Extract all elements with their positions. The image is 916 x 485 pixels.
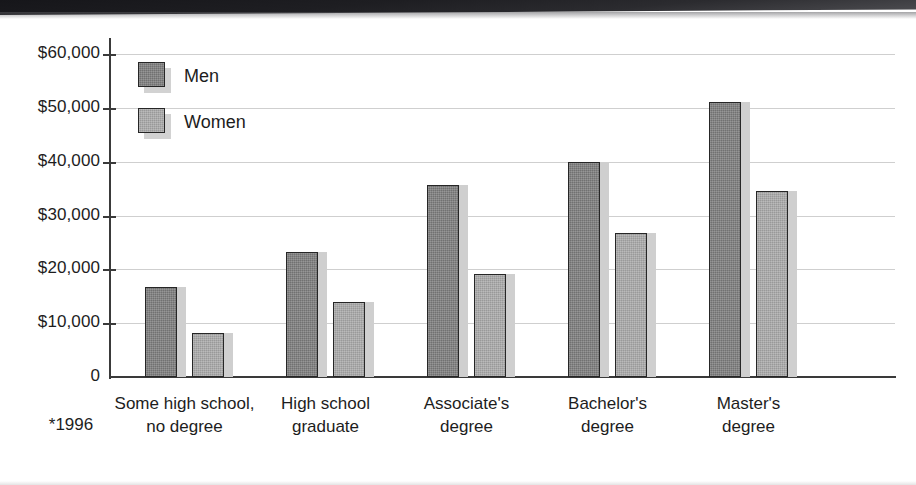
chart-legend: MenWomen [138,62,246,154]
y-axis-tick-label: $40,000 [4,151,100,171]
y-axis-tick-label: $10,000 [4,312,100,332]
y-axis-tick-label: 0 [4,366,100,386]
y-axis-tick-label: $50,000 [4,97,100,117]
category-label-4: Master'sdegree [654,392,844,438]
y-axis-tick-mark [103,54,116,56]
bar-men-1 [286,252,318,377]
bar-women-0 [192,333,224,377]
scan-bottom-edge [0,481,916,485]
bar-women-3 [615,233,647,377]
y-axis-tick-label: $60,000 [4,43,100,63]
y-axis-tick-mark [103,216,116,218]
bar-men-0 [145,287,177,377]
y-axis-tick-label: $30,000 [4,205,100,225]
bar-women-4 [756,191,788,377]
legend-swatch-men [138,62,165,87]
legend-swatch-wrap [138,108,172,136]
y-axis-tick-mark [103,323,116,325]
bar-men-4 [709,102,741,377]
bar-women-2 [474,274,506,377]
y-axis-tick-mark [103,162,116,164]
legend-swatch-women [138,108,165,133]
legend-label: Women [184,112,246,133]
y-axis-tick-mark [103,269,116,271]
gridline [110,162,895,163]
y-axis-labels: $60,000$50,000$40,000$30,000$20,000$10,0… [0,0,100,485]
y-axis-tick-mark [103,108,116,110]
category-label-line: degree [654,415,844,438]
legend-item-women: Women [138,108,246,136]
bar-men-3 [568,162,600,377]
gridline [110,54,895,55]
y-axis-tick-label: $20,000 [4,258,100,278]
category-label-line: Master's [654,392,844,415]
legend-label: Men [184,66,219,87]
bar-men-2 [427,185,459,377]
bar-women-1 [333,302,365,377]
legend-item-men: Men [138,62,246,90]
earnings-by-education-bar-chart: $60,000$50,000$40,000$30,000$20,000$10,0… [0,0,916,485]
legend-swatch-wrap [138,62,172,90]
footnote-year: *1996 [28,415,114,435]
